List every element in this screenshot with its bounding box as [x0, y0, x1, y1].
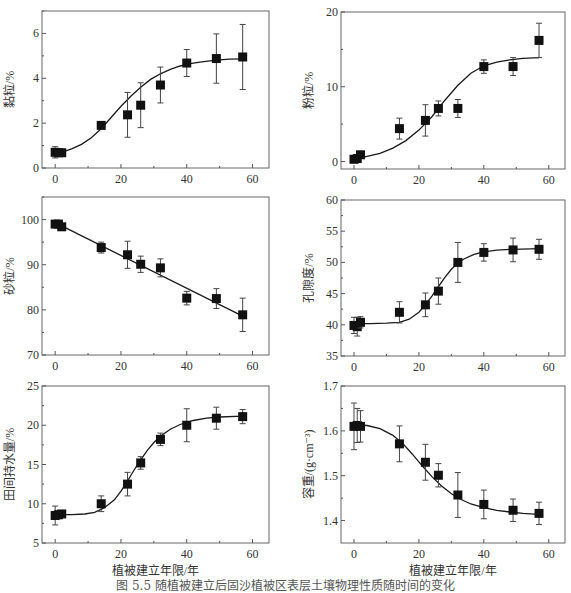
x-tick-label: 40: [478, 173, 490, 187]
y-tick-label: 20: [27, 418, 39, 432]
data-point: [434, 104, 443, 113]
data-point: [395, 439, 404, 448]
data-point: [97, 121, 106, 130]
data-point: [182, 59, 191, 68]
plot-frame: [341, 200, 565, 356]
data-point: [434, 471, 443, 480]
data-point: [123, 250, 132, 259]
data-point: [238, 52, 247, 61]
data-point: [57, 148, 66, 157]
y-tick-label: 0: [33, 161, 39, 175]
x-tick-label: 60: [247, 172, 259, 186]
data-point: [453, 491, 462, 500]
plot-frame: [42, 11, 269, 168]
y-tick-label: 15: [27, 458, 39, 472]
fit-curve: [58, 416, 242, 515]
y-tick-label: 1.6: [323, 424, 338, 438]
y-tick-label: 45: [326, 287, 338, 301]
y-tick-label: 100: [21, 213, 39, 227]
x-tick-label: 60: [247, 359, 259, 373]
data-point: [479, 248, 488, 257]
y-axis-label: 粉粒/%: [301, 72, 316, 109]
data-point: [238, 310, 247, 319]
x-tick-label: 60: [543, 173, 555, 187]
x-tick-label: 40: [181, 547, 193, 561]
y-tick-label: 20: [326, 5, 338, 19]
data-point: [509, 245, 518, 254]
data-point: [212, 54, 221, 63]
data-point: [123, 480, 132, 489]
subplot-sand: 0204060708090100砂粒/%: [2, 197, 269, 373]
y-tick-label: 50: [326, 255, 338, 269]
data-point: [535, 245, 544, 254]
data-point: [212, 414, 221, 423]
y-tick-label: 90: [27, 258, 39, 272]
data-point: [356, 422, 365, 431]
data-point: [453, 104, 462, 113]
x-tick-label: 20: [413, 547, 425, 561]
y-axis-label: 田间持水量/%: [2, 428, 17, 501]
fit-curve: [62, 59, 243, 153]
y-tick-label: 40: [326, 318, 338, 332]
y-tick-label: 1.4: [323, 514, 338, 528]
data-point: [535, 509, 544, 518]
fit-curve: [357, 58, 539, 159]
y-axis-label: 容重/(g·cm⁻³): [301, 430, 316, 500]
y-tick-label: 35: [326, 349, 338, 363]
x-tick-label: 20: [413, 360, 425, 374]
data-point: [136, 260, 145, 269]
data-point: [136, 458, 145, 467]
subplot-clay: 02040600246黏粒/%: [2, 11, 269, 186]
data-point: [182, 294, 191, 303]
x-tick-label: 20: [115, 359, 127, 373]
data-point: [212, 294, 221, 303]
data-point: [434, 287, 443, 296]
y-axis-label: 孔隙度/%: [301, 253, 316, 302]
x-tick-label: 0: [52, 547, 58, 561]
data-point: [421, 300, 430, 309]
x-tick-label: 40: [181, 359, 193, 373]
data-point: [395, 124, 404, 133]
data-point: [57, 509, 66, 518]
y-tick-label: 60: [326, 193, 338, 207]
data-point: [156, 263, 165, 272]
data-point: [535, 36, 544, 45]
data-point: [238, 412, 247, 421]
y-tick-label: 10: [27, 497, 39, 511]
data-point: [479, 62, 488, 71]
y-tick-label: 80: [27, 303, 39, 317]
data-point: [356, 318, 365, 327]
x-tick-label: 20: [115, 172, 127, 186]
data-point: [156, 81, 165, 90]
y-axis-label: 砂粒/%: [2, 257, 17, 294]
x-tick-label: 0: [351, 547, 357, 561]
y-axis-label: 黏粒/%: [2, 71, 17, 108]
y-tick-label: 10: [326, 80, 338, 94]
fit-curve: [357, 425, 539, 514]
data-point: [156, 435, 165, 444]
x-tick-label: 20: [115, 547, 127, 561]
figure-caption: 图 5.5 随植被建立后固沙植被区表层土壤物理性质随时间的变化: [0, 576, 571, 593]
x-tick-label: 20: [413, 173, 425, 187]
data-point: [182, 421, 191, 430]
y-tick-label: 1.5: [323, 469, 338, 483]
x-tick-label: 40: [478, 360, 490, 374]
x-tick-label: 0: [351, 173, 357, 187]
y-tick-label: 55: [326, 224, 338, 238]
data-point: [421, 458, 430, 467]
data-point: [97, 243, 106, 252]
x-tick-label: 0: [52, 172, 58, 186]
data-point: [97, 499, 106, 508]
data-point: [356, 150, 365, 159]
x-tick-label: 60: [543, 547, 555, 561]
y-tick-label: 25: [27, 379, 39, 393]
y-tick-label: 6: [33, 26, 39, 40]
data-point: [57, 222, 66, 231]
y-tick-label: 70: [27, 348, 39, 362]
y-tick-label: 4: [33, 71, 39, 85]
data-point: [479, 500, 488, 509]
data-point: [421, 116, 430, 125]
data-point: [123, 110, 132, 119]
